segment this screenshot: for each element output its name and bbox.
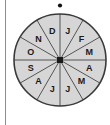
- spinner-hub: [57, 57, 63, 63]
- sector-label-december: D: [49, 26, 56, 36]
- spinner-svg: JFMAMJJASOND: [0, 0, 110, 125]
- sector-label-october: O: [27, 47, 34, 57]
- sector-label-august: A: [35, 76, 42, 86]
- pointer-dot-icon: [58, 3, 62, 7]
- sector-label-september: S: [28, 63, 34, 73]
- spinner-figure: JFMAMJJASOND: [0, 0, 110, 125]
- sector-label-june: J: [65, 84, 70, 94]
- sector-label-may: M: [78, 76, 86, 86]
- sector-label-february: F: [79, 34, 85, 44]
- figure-canvas: JFMAMJJASOND: [0, 0, 110, 125]
- sector-label-january: J: [65, 26, 70, 36]
- sector-label-november: N: [35, 34, 42, 44]
- sector-label-july: J: [50, 84, 55, 94]
- sector-label-march: M: [86, 47, 94, 57]
- sector-label-april: A: [86, 63, 93, 73]
